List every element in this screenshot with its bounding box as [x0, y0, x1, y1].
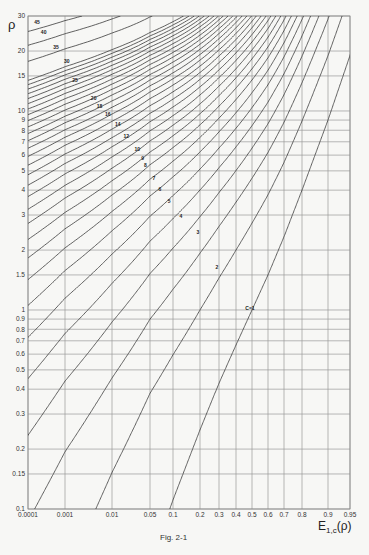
curve-c-19: [3, 16, 238, 152]
y-tick-label: 10: [18, 107, 26, 114]
curve-label: 5: [168, 198, 171, 204]
x-tick-label: 0.1: [168, 511, 177, 518]
figure-caption: Fig. 2-1: [160, 533, 187, 542]
y-tick-label: 0.6: [16, 350, 25, 357]
erlang-loss-chart: C=1234567891012141618202530354045 302015…: [0, 0, 369, 555]
curve-c-1: [170, 16, 364, 509]
curve-label: 35: [53, 44, 59, 50]
x-tick-label: 0.2: [195, 511, 204, 518]
y-tick-label: 6: [21, 151, 25, 158]
x-tick-label: 0.6: [263, 511, 272, 518]
x-axis-label: E1,c(ρ): [318, 519, 352, 535]
curve-label: 18: [97, 103, 103, 109]
x-tick-label: 0.01: [106, 511, 119, 518]
x-tick-label: 0.4: [231, 511, 240, 518]
curve-c-17: [4, 16, 247, 168]
x-tick-label: 0.0001: [18, 511, 38, 518]
y-tick-label: 0.8: [16, 326, 25, 333]
curve-label: 30: [64, 58, 70, 64]
x-tick-label: 0.001: [57, 511, 74, 518]
curve-label: 8: [144, 162, 147, 168]
curve-label: 2: [216, 264, 219, 270]
y-tick-label: 7: [21, 138, 25, 145]
y-tick-label: 1: [21, 306, 25, 313]
y-tick-label: 15: [18, 72, 26, 79]
curve-label: 16: [105, 111, 111, 117]
x-tick-label: 0.7: [279, 511, 288, 518]
curve-label: 14: [115, 121, 121, 127]
x-tick-label: 0.3: [214, 511, 223, 518]
y-tick-label: 0.2: [16, 445, 25, 452]
curve-c-10: [3, 16, 281, 256]
x-tick-label: 0.05: [144, 511, 157, 518]
curve-label: 25: [72, 77, 78, 83]
curve-label: 4: [179, 213, 182, 219]
y-tick-label: 0.5: [16, 366, 25, 373]
curve-series: [2, 16, 363, 509]
curve-label: 40: [41, 29, 47, 35]
curve-label: 45: [34, 19, 40, 25]
y-tick-label: 20: [18, 47, 26, 54]
y-tick-label: 2: [21, 246, 25, 253]
curve-label: 10: [135, 146, 141, 152]
curve-c-3: [35, 16, 330, 509]
y-tick-label: 0.7: [16, 337, 25, 344]
curve-c-8: [3, 16, 291, 300]
x-axis-ticks: 0.00010.0010.010.050.10.20.30.40.50.60.7…: [18, 511, 357, 518]
y-tick-label: 0.9: [16, 315, 25, 322]
x-tick-label: 0.9: [323, 511, 332, 518]
curve-c-4: [3, 16, 319, 471]
curve-c-13: [3, 16, 266, 211]
y-tick-label: 0.15: [12, 470, 25, 477]
y-tick-label: 0.3: [16, 410, 25, 417]
y-tick-label: 1.5: [16, 271, 25, 278]
y-axis-ticks: 30201510987654321.510.90.80.70.60.50.40.…: [12, 12, 25, 512]
curve-label: 7: [153, 175, 156, 181]
y-tick-label: 5: [21, 167, 25, 174]
curve-label: C=1: [245, 305, 255, 311]
y-axis-label: ρ: [8, 17, 15, 32]
y-tick-label: 30: [18, 12, 26, 19]
x-tick-label: 0.95: [344, 511, 357, 518]
curve-label: 20: [91, 95, 97, 101]
curve-label: 6: [159, 186, 162, 192]
x-tick-label: 0.5: [247, 511, 256, 518]
curve-label: 12: [123, 133, 129, 139]
y-tick-label: 9: [21, 116, 25, 123]
y-tick-label: 0.4: [16, 385, 25, 392]
y-tick-label: 8: [21, 127, 25, 134]
x-tick-label: 0.8: [297, 511, 306, 518]
curve-c-11: [3, 16, 276, 239]
y-tick-label: 4: [21, 186, 25, 193]
curve-label: 3: [197, 229, 200, 235]
curve-label: 9: [141, 155, 144, 161]
y-tick-label: 3: [21, 211, 25, 218]
